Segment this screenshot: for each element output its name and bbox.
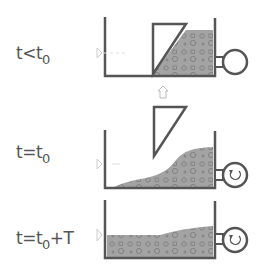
pump-circle-icon [223,50,247,74]
gate-triangle [154,107,186,156]
diagram-canvas [0,0,263,277]
gate-lift-arrow-icon [158,86,168,98]
inflow-marker-icon [97,159,120,169]
pump-circle-icon [223,163,247,187]
sediment-slope [114,147,213,187]
sediment-block [153,30,213,75]
sediment-layer [107,226,213,257]
tank-stage-after [97,200,247,258]
tank-stage-release [97,107,247,188]
pump-circle-icon [223,228,247,252]
tank-stage-before [97,17,247,76]
inflow-marker-icon [97,229,102,241]
inflow-marker-icon [97,48,126,58]
